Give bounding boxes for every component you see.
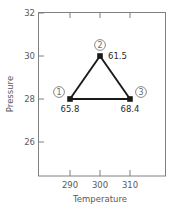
node-marker-3[interactable] [127,96,133,102]
node-id-badge-1: 1 [54,87,65,98]
node-id-badge-3: 3 [136,87,147,98]
node-value-label-2: 61.5 [108,51,127,61]
node-value-label-1: 65.8 [61,104,80,114]
y-tick-label-30: 30 [24,51,35,61]
x-tick-label-310: 310 [122,180,138,190]
node-id-badge-2: 2 [95,40,106,51]
y-axis-title: Pressure [5,76,15,112]
x-axis-title: Temperature [72,194,127,204]
x-tick-label-300: 300 [92,180,108,190]
y-tick-label-32: 32 [24,8,35,18]
node-marker-1[interactable] [67,96,73,102]
node-marker-2[interactable] [97,53,103,59]
y-tick-label-28: 28 [24,94,35,104]
x-tick-label-290: 290 [62,180,78,190]
chart-container: 32 30 28 26 290 300 310 Temperature Pres… [0,0,179,213]
y-tick-label-26: 26 [24,137,35,147]
node-value-label-3: 68.4 [121,104,140,114]
chart-background [0,0,179,213]
node-id-label-3: 3 [138,88,143,97]
triangle-network-chart: 32 30 28 26 290 300 310 Temperature Pres… [0,0,179,213]
node-id-label-2: 2 [97,41,102,50]
node-id-label-1: 1 [56,88,61,97]
